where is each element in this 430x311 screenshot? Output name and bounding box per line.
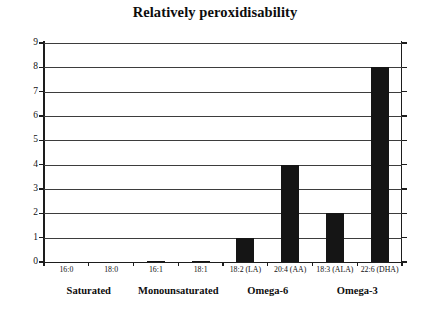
y-tick-label: 4 <box>24 160 38 170</box>
y-tick-mark-right <box>402 42 407 43</box>
y-tick-mark <box>39 188 44 189</box>
y-tick-mark-right <box>402 164 407 165</box>
x-tick-label: 20:4 (AA) <box>268 266 313 275</box>
y-tick-mark-right <box>402 67 407 68</box>
y-tick-mark <box>39 42 44 43</box>
y-tick-mark-right <box>402 261 407 262</box>
y-tick-mark-right <box>402 140 407 141</box>
x-tick-label: 18:1 <box>178 266 223 275</box>
y-tick-mark-right <box>402 91 407 92</box>
group-label: Saturated <box>44 285 134 297</box>
y-tick-label: 9 <box>24 38 38 48</box>
chart-title: Relatively peroxidisability <box>0 4 430 21</box>
y-tick-label: 7 <box>24 87 38 97</box>
group-label: Omega-3 <box>313 285 403 297</box>
bar <box>147 261 165 262</box>
y-tick-label: 5 <box>24 135 38 145</box>
plot-area: 0123456789 <box>44 43 402 262</box>
y-tick-mark-right <box>402 237 407 238</box>
y-tick-label: 1 <box>24 233 38 243</box>
bar <box>371 67 389 262</box>
x-tick-label: 16:1 <box>134 266 179 275</box>
bar <box>236 238 254 262</box>
y-tick-label: 2 <box>24 208 38 218</box>
y-tick-mark <box>39 140 44 141</box>
gridline <box>44 165 402 166</box>
y-tick-label: 0 <box>24 257 38 267</box>
y-tick-label: 3 <box>24 184 38 194</box>
y-tick-mark <box>39 115 44 116</box>
x-tick-label: 16:0 <box>44 266 89 275</box>
x-tick-label: 18:0 <box>89 266 134 275</box>
gridline <box>44 238 402 239</box>
y-tick-mark-right <box>402 213 407 214</box>
gridline <box>44 189 402 190</box>
x-tick-label: 18:3 (ALA) <box>313 266 358 275</box>
y-tick-mark <box>39 91 44 92</box>
y-tick-mark-right <box>402 188 407 189</box>
y-tick-mark <box>39 164 44 165</box>
x-tick-label: 18:2 (LA) <box>223 266 268 275</box>
gridline <box>44 213 402 214</box>
bar <box>281 165 299 262</box>
bar <box>192 261 210 262</box>
group-label: Monounsaturated <box>134 285 224 297</box>
gridline <box>44 43 402 44</box>
y-tick-label: 6 <box>24 111 38 121</box>
group-label: Omega-6 <box>223 285 313 297</box>
y-tick-label: 8 <box>24 62 38 72</box>
y-tick-mark <box>39 213 44 214</box>
y-tick-mark <box>39 237 44 238</box>
x-tick-label: 22:6 (DHA) <box>357 266 402 275</box>
gridline <box>44 140 402 141</box>
gridline <box>44 92 402 93</box>
gridline <box>44 67 402 68</box>
y-tick-mark <box>39 67 44 68</box>
x-axis-tick-labels: 16:018:016:118:118:2 (LA)20:4 (AA)18:3 (… <box>44 266 402 280</box>
chart-figure: Relatively peroxidisability 0123456789 1… <box>0 0 430 311</box>
y-tick-mark-right <box>402 115 407 116</box>
x-axis-group-labels: SaturatedMonounsaturatedOmega-6Omega-3 <box>44 285 402 301</box>
gridline <box>44 116 402 117</box>
bar <box>326 213 344 262</box>
